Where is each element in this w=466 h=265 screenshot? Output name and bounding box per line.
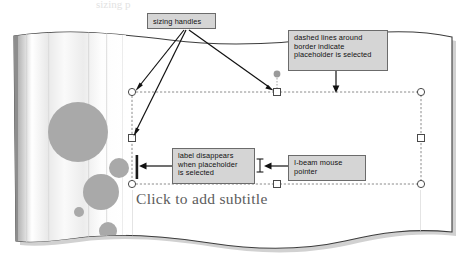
sizing-handle-middle-left[interactable] bbox=[129, 135, 136, 142]
sizing-handle-top-middle[interactable] bbox=[274, 89, 281, 96]
decor-circle-medium bbox=[83, 174, 119, 210]
top-partial-text: sizing p bbox=[96, 0, 131, 10]
subtitle-placeholder-text: Click to add subtitle bbox=[136, 190, 268, 208]
decor-circle-tiny bbox=[74, 207, 84, 217]
sizing-handle-bottom-left[interactable] bbox=[128, 180, 135, 187]
sizing-handle-top-left[interactable] bbox=[128, 88, 135, 95]
text-insertion-caret bbox=[136, 155, 139, 179]
callout-sizing-handles: sizing handles bbox=[147, 13, 216, 29]
callout-ibeam-mouse-pointer: I-beam mouse pointer bbox=[288, 155, 366, 181]
sizing-handle-bottom-middle[interactable] bbox=[274, 181, 281, 188]
slide-stripe-line-1 bbox=[26, 26, 27, 246]
callout-label-disappears: label disappears when placeholder is sel… bbox=[172, 148, 255, 184]
slide-stripe-line-5 bbox=[122, 26, 123, 246]
slide-right-guide bbox=[420, 190, 421, 246]
sizing-handle-top-right[interactable] bbox=[417, 88, 424, 95]
decor-circle-small-1 bbox=[109, 158, 129, 178]
sizing-handle-bottom-right[interactable] bbox=[417, 180, 424, 187]
sizing-handle-middle-right[interactable] bbox=[418, 135, 425, 142]
figure-canvas: sizing p Click to add subtitle sizing ha… bbox=[0, 0, 466, 265]
decor-circle-large bbox=[48, 102, 108, 162]
illustration-svg bbox=[0, 0, 466, 265]
callout-dashed-lines: dashed lines around border indicate plac… bbox=[288, 30, 388, 71]
